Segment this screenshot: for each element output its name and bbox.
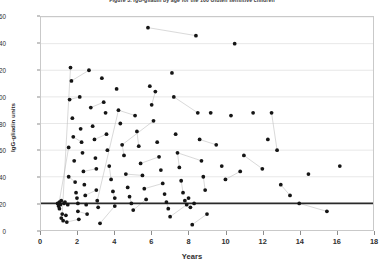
y-axis-tick-label: 100 xyxy=(0,93,6,100)
x-axis-tick-mark xyxy=(300,231,301,235)
x-axis-tick-label: 14 xyxy=(288,237,312,246)
data-points xyxy=(56,26,342,227)
x-axis-tick-mark xyxy=(77,231,78,235)
y-axis-tick-mark xyxy=(37,42,40,43)
x-axis-tick-mark xyxy=(374,231,375,235)
y-axis-tick-mark xyxy=(37,204,40,205)
y-axis-tick-label: 60 xyxy=(0,147,6,154)
x-axis-tick-mark xyxy=(188,231,189,235)
x-axis-tick-label: 0 xyxy=(28,237,52,246)
x-axis-tick-mark xyxy=(337,231,338,235)
x-axis-tick-label: 8 xyxy=(176,237,200,246)
x-axis-tick-mark xyxy=(226,231,227,235)
y-axis-tick-label: 80 xyxy=(0,120,6,127)
y-axis-tick-label: 0 xyxy=(0,228,6,235)
x-axis-tick-label: 10 xyxy=(214,237,238,246)
x-axis-tick-label: 16 xyxy=(325,237,349,246)
x-axis-label: Years xyxy=(0,252,384,261)
data-layer xyxy=(41,17,373,230)
connector-lines xyxy=(58,28,327,225)
x-axis-tick-label: 6 xyxy=(139,237,163,246)
y-axis-tick-mark xyxy=(37,177,40,178)
y-axis-tick-label: 40 xyxy=(0,174,6,181)
figure-title: Figure 3. IgG-gliadin by age for the 100… xyxy=(0,0,384,4)
x-axis-tick-label: 12 xyxy=(251,237,275,246)
y-axis-tick-mark xyxy=(37,150,40,151)
x-axis-tick-label: 4 xyxy=(102,237,126,246)
y-axis-tick-mark xyxy=(37,16,40,17)
x-axis-tick-mark xyxy=(263,231,264,235)
figure-container: Figure 3. IgG-gliadin by age for the 100… xyxy=(0,0,384,268)
x-axis-tick-mark xyxy=(151,231,152,235)
y-axis-tick-mark xyxy=(37,96,40,97)
x-axis-tick-label: 18 xyxy=(362,237,384,246)
y-axis-tick-mark xyxy=(37,123,40,124)
gridlines xyxy=(41,17,373,203)
y-axis-label: IgG-gliadin units xyxy=(9,88,16,168)
y-axis-tick-label: 120 xyxy=(0,66,6,73)
y-axis-tick-label: 20 xyxy=(0,201,6,208)
y-axis-tick-label: 160 xyxy=(0,13,6,20)
x-axis-tick-mark xyxy=(40,231,41,235)
x-axis-tick-label: 2 xyxy=(65,237,89,246)
plot-area xyxy=(40,16,374,231)
x-axis-tick-mark xyxy=(114,231,115,235)
y-axis-tick-mark xyxy=(37,69,40,70)
y-axis-tick-label: 140 xyxy=(0,39,6,46)
